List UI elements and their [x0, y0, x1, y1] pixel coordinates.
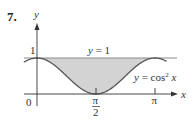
curve-annotation: y = cos2 x — [133, 71, 177, 83]
pi-label: π — [152, 94, 158, 106]
origin-label: 0 — [26, 96, 32, 108]
pi-half-numerator: π — [93, 94, 99, 106]
line-annotation: y = 1 — [87, 44, 110, 56]
y-axis-arrow-icon — [35, 23, 40, 30]
line-annotation-rest: = 1 — [93, 44, 110, 56]
figure: 7. y x 0 1 π 2 π y = 1 y = cos2 x — [0, 0, 193, 137]
y-axis-label: y — [33, 8, 39, 20]
curve-annotation-x: x — [169, 71, 177, 83]
pi-half-denominator: 2 — [93, 106, 99, 118]
curve-annotation-mid: = cos — [139, 71, 165, 83]
x-axis-label: x — [180, 88, 186, 100]
y-tick-label-1: 1 — [30, 44, 36, 56]
x-axis-arrow-icon — [171, 92, 178, 97]
problem-number: 7. — [7, 9, 17, 24]
